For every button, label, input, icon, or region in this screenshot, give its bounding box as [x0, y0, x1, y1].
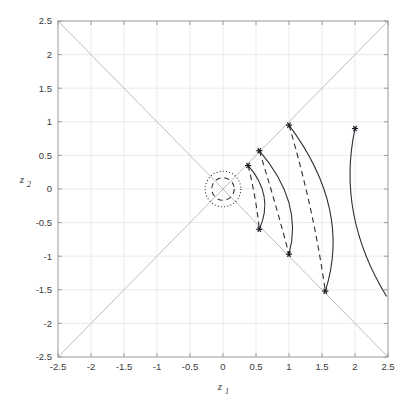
y-tick-label: -2 [44, 318, 52, 329]
svg-text:2: 2 [27, 180, 31, 189]
plot-svg: -2.5-2-1.5-1-0.500.511.522.5-2.5-2-1.5-1… [0, 0, 415, 411]
svg-text:1: 1 [225, 387, 229, 396]
y-tick-label: -1 [44, 251, 52, 262]
x-tick-label: 1 [286, 361, 291, 372]
svg-text:z: z [217, 380, 223, 392]
y-tick-label: -2.5 [36, 351, 52, 362]
svg-text:z: z [19, 173, 25, 185]
y-tick-label: 1 [47, 116, 52, 127]
figure-container: -2.5-2-1.5-1-0.500.511.522.5-2.5-2-1.5-1… [0, 0, 415, 411]
x-tick-label: -1 [153, 361, 161, 372]
y-tick-label: 1.5 [39, 83, 52, 94]
x-tick-label: 1.5 [315, 361, 328, 372]
x-tick-label: -2 [87, 361, 95, 372]
y-tick-label: -1.5 [36, 284, 52, 295]
y-tick-label: 0.5 [39, 150, 52, 161]
x-tick-label: -0.5 [182, 361, 198, 372]
y-tick-label: 2.5 [39, 15, 52, 26]
x-tick-label: -1.5 [116, 361, 132, 372]
y-tick-label: 0 [47, 183, 52, 194]
x-tick-label: 2.5 [381, 361, 394, 372]
y-tick-label: 2 [47, 49, 52, 60]
x-tick-label: -2.5 [50, 361, 66, 372]
x-tick-label: 0 [220, 361, 225, 372]
y-axis-title: z2 [19, 173, 31, 189]
y-tick-label: -0.5 [36, 217, 52, 228]
x-axis-title: z1 [217, 380, 229, 396]
x-tick-label: 2 [352, 361, 357, 372]
x-tick-label: 0.5 [249, 361, 262, 372]
